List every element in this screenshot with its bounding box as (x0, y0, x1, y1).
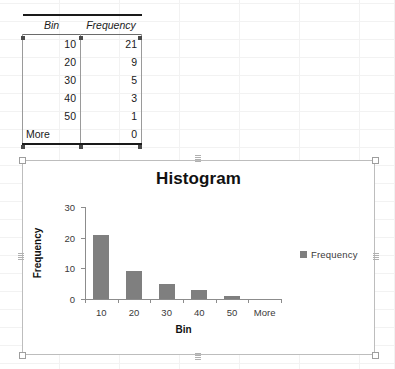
chart-title[interactable]: Histogram (23, 169, 374, 189)
x-axis-category-label: 10 (96, 307, 107, 318)
x-axis-category-label: 40 (194, 307, 205, 318)
chart-legend[interactable]: Frequency (300, 249, 358, 260)
cell-bin[interactable]: 10 (23, 35, 81, 54)
column-header-bin[interactable]: Bin (23, 15, 81, 35)
cell-bin[interactable]: More (23, 125, 81, 144)
cell-frequency[interactable]: 9 (81, 53, 142, 71)
y-axis-tick-label: 0 (70, 294, 75, 305)
selection-handle-top-center[interactable] (79, 36, 83, 40)
cell-frequency[interactable]: 1 (81, 107, 142, 125)
selection-handle-bottom-center[interactable] (79, 145, 83, 149)
chart-handle-top-left[interactable] (19, 157, 26, 164)
x-axis-tick (281, 299, 282, 303)
x-axis-tick (216, 299, 217, 303)
chart-bar[interactable] (224, 296, 240, 299)
cell-frequency[interactable]: 0 (81, 125, 142, 144)
y-axis-tick: 30 (81, 207, 85, 208)
y-axis-tick: 20 (81, 238, 85, 239)
histogram-chart-object[interactable]: Histogram Frequency 01020301020304050Mor… (22, 160, 375, 355)
selection-handle-bottom-left[interactable] (21, 145, 25, 149)
chart-handle-bottom-center[interactable] (195, 353, 201, 361)
x-axis-tick (248, 299, 249, 303)
chart-bar[interactable] (191, 290, 207, 299)
selection-handle-top-right[interactable] (138, 36, 142, 40)
cell-bin[interactable]: 20 (23, 53, 81, 71)
legend-label-frequency: Frequency (311, 249, 358, 260)
chart-handle-middle-right[interactable] (373, 253, 379, 261)
cell-frequency[interactable]: 5 (81, 71, 142, 89)
chart-handle-top-center[interactable] (195, 155, 201, 163)
cell-bin[interactable]: 30 (23, 71, 81, 89)
table-header-row: Bin Frequency (23, 15, 142, 35)
table-row[interactable]: 50 1 (23, 107, 142, 125)
chart-bar[interactable] (126, 271, 142, 299)
x-axis-category-label: 50 (227, 307, 238, 318)
column-header-frequency[interactable]: Frequency (81, 15, 142, 35)
chart-handle-bottom-left[interactable] (19, 352, 26, 359)
y-axis-tick: 10 (81, 268, 85, 269)
y-axis-tick-label: 10 (64, 263, 75, 274)
selection-handle-top-left[interactable] (21, 36, 25, 40)
chart-bar[interactable] (93, 235, 109, 299)
x-axis-tick (118, 299, 119, 303)
table-row[interactable]: 40 3 (23, 89, 142, 107)
cell-bin[interactable]: 50 (23, 107, 81, 125)
table-row[interactable]: 30 5 (23, 71, 142, 89)
table-row[interactable]: More 0 (23, 125, 142, 144)
cell-frequency[interactable]: 21 (81, 35, 142, 54)
y-axis-tick-label: 30 (64, 202, 75, 213)
chart-handle-middle-left[interactable] (18, 253, 24, 261)
chart-handle-bottom-right[interactable] (372, 352, 379, 359)
cell-bin[interactable]: 40 (23, 89, 81, 107)
table-row[interactable]: 20 9 (23, 53, 142, 71)
frequency-table-range[interactable]: Bin Frequency 10 21 20 9 30 5 40 3 50 (22, 14, 141, 145)
frequency-table[interactable]: Bin Frequency 10 21 20 9 30 5 40 3 50 (22, 14, 142, 145)
x-axis-tick (85, 299, 86, 303)
x-axis-tick (183, 299, 184, 303)
x-axis-tick (150, 299, 151, 303)
plot-area[interactable]: 01020301020304050More (85, 207, 281, 299)
x-axis-category-label: 30 (161, 307, 172, 318)
x-axis-category-label: More (254, 307, 276, 318)
chart-bar[interactable] (159, 284, 175, 299)
table-body: 10 21 20 9 30 5 40 3 50 1 More 0 (23, 35, 142, 145)
chart-handle-top-right[interactable] (372, 157, 379, 164)
y-axis-tick-label: 20 (64, 232, 75, 243)
selection-handle-bottom-right[interactable] (138, 145, 142, 149)
cell-frequency[interactable]: 3 (81, 89, 142, 107)
legend-swatch-icon (300, 251, 307, 258)
x-axis-title[interactable]: Bin (85, 324, 282, 335)
y-axis-title[interactable]: Frequency (32, 228, 43, 279)
x-axis-category-label: 20 (129, 307, 140, 318)
